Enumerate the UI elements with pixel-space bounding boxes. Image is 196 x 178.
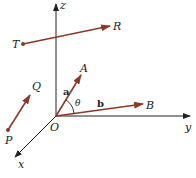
label-P: P [4, 134, 13, 147]
label-A: A [79, 62, 88, 75]
label-T: T [12, 38, 21, 51]
vector-diagram: z y x O R T Q P A B a b θ [0, 0, 196, 178]
point-P [6, 128, 10, 132]
vector-TR [23, 26, 110, 44]
label-z: z [59, 0, 66, 12]
label-y: y [184, 121, 192, 134]
label-x: x [18, 158, 25, 171]
label-B: B [145, 99, 154, 112]
label-vector-b: b [97, 98, 104, 109]
label-O: O [50, 121, 59, 134]
label-vector-a: a [63, 86, 70, 97]
angle-arc [66, 100, 74, 114]
label-R: R [112, 20, 121, 33]
point-T [21, 42, 25, 46]
vector-PQ [8, 95, 30, 130]
label-theta: θ [75, 98, 81, 108]
label-Q: Q [32, 80, 41, 93]
